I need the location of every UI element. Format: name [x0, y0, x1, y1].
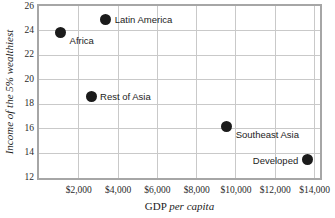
scatter-chart: 1214161820222426 AfricaLatin AmericaRest… [0, 0, 335, 218]
point-label-developed: Developed [253, 156, 298, 166]
data-point-africa[interactable] [55, 27, 66, 38]
data-point-developed[interactable] [302, 154, 313, 165]
data-point-southeast-asia[interactable] [221, 121, 232, 132]
plot-area: AfricaLatin AmericaRest of AsiaSoutheast… [37, 4, 322, 180]
gridline-horizontal [39, 55, 320, 56]
gridline-horizontal [39, 79, 320, 80]
x-tick-label: $10,000 [221, 186, 252, 196]
x-tick-label: $6,000 [144, 186, 170, 196]
x-tick-label: $4,000 [105, 186, 131, 196]
x-tick-label: $14,000 [299, 186, 330, 196]
x-axis-title: GDP per capita [37, 200, 322, 212]
x-axis-title-gdp: GDP [145, 200, 169, 212]
x-axis-title-percapita: per capita [169, 200, 214, 212]
x-tick-label: $8,000 [184, 186, 210, 196]
gridline-horizontal [39, 153, 320, 154]
data-point-latin-america[interactable] [100, 14, 111, 25]
x-tick-label: $2,000 [66, 186, 92, 196]
point-label-rest-of-asia: Rest of Asia [100, 93, 151, 103]
point-label-africa: Africa [70, 36, 94, 46]
gridline-horizontal [39, 30, 320, 31]
x-tick-label: $12,000 [260, 186, 291, 196]
gridline-horizontal [39, 104, 320, 105]
point-label-latin-america: Latin America [115, 16, 173, 26]
data-point-rest-of-asia[interactable] [86, 91, 97, 102]
point-label-southeast-asia: Southeast Asia [236, 130, 299, 140]
x-axis-tick-labels: $2,000$4,000$6,000$8,000$10,000$12,000$1… [0, 186, 335, 200]
y-axis-title: Income of the 5% wealthiest [3, 4, 15, 180]
